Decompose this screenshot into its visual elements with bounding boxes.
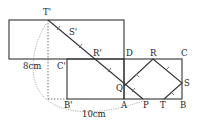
label-c-prime: C' [57, 61, 66, 71]
top-rectangle [9, 20, 124, 59]
label-8cm: 8cm [23, 61, 41, 71]
tick-mark [136, 74, 139, 77]
label-10cm: 10cm [82, 109, 106, 119]
label-d: D [126, 48, 133, 58]
label-b-prime: B' [64, 100, 73, 110]
rotated-square-region [67, 59, 124, 99]
label-p: P [143, 100, 149, 110]
inner-quadrilateral [124, 59, 182, 99]
label-q: Q [116, 83, 123, 93]
rectangle-abcd [124, 59, 182, 99]
label-r: R [150, 48, 157, 58]
label-t: T [160, 100, 166, 110]
label-a: A [120, 100, 128, 110]
tick-mark [171, 92, 174, 95]
tick-mark [166, 67, 169, 70]
label-r-prime: R' [93, 48, 102, 58]
label-s-prime: S' [69, 27, 77, 37]
label-b: B [180, 100, 186, 110]
label-t-prime: T' [43, 7, 51, 17]
geometry-diagram: T' S' R' C' B' D R C Q S A P T B 8cm 10c… [0, 0, 198, 122]
label-c: C [181, 48, 188, 58]
label-s: S [184, 78, 190, 88]
